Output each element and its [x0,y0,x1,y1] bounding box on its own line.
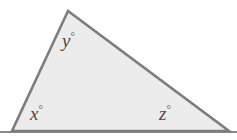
degree-symbol-x: ° [38,103,42,115]
degree-symbol-y: ° [70,30,74,42]
angle-label-y: y° [62,31,75,50]
triangle-figure: y° x° z° [0,0,237,140]
angle-label-x: x° [30,104,43,123]
angle-label-z: z° [159,104,171,123]
degree-symbol-z: ° [166,103,170,115]
